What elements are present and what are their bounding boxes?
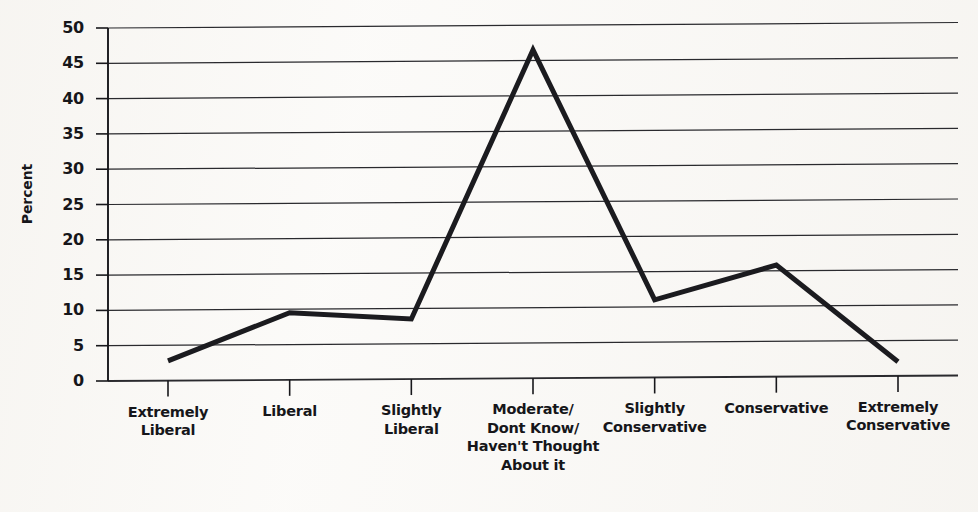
x-axis-tick-marks — [168, 376, 898, 397]
series-percent-line — [168, 50, 898, 362]
gridlines — [108, 23, 958, 382]
chart-container: Percent 05101520253035404550 Extremely L… — [0, 0, 978, 512]
gridline — [108, 270, 958, 276]
data-series-line — [168, 50, 898, 362]
gridline — [108, 23, 958, 29]
gridline — [108, 58, 958, 64]
x-axis-tick-label: Extremely Conservative — [814, 398, 978, 435]
gridline — [108, 340, 958, 346]
y-axis-tick-marks — [96, 28, 108, 381]
gridline — [108, 164, 958, 170]
gridline — [108, 93, 958, 99]
gridline — [108, 199, 958, 205]
gridline — [108, 234, 958, 240]
gridline — [108, 128, 958, 134]
